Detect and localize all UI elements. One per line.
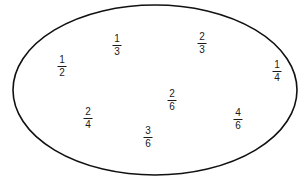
fraction-numerator: 3: [144, 125, 152, 136]
fraction-denominator: 6: [234, 120, 242, 131]
fraction-1-over-4: 14: [273, 59, 282, 83]
fraction-denominator: 4: [273, 72, 281, 83]
fraction-4-over-6: 46: [234, 107, 243, 131]
fraction-denominator: 3: [113, 46, 121, 57]
fraction-numerator: 1: [113, 33, 121, 44]
fraction-2-over-3: 23: [198, 31, 207, 55]
fraction-denominator: 2: [58, 67, 66, 78]
fraction-numerator: 2: [198, 31, 206, 42]
fraction-numerator: 1: [58, 54, 66, 65]
fraction-numerator: 2: [168, 88, 176, 99]
fraction-2-over-6: 26: [168, 88, 177, 112]
fraction-numerator: 2: [84, 106, 92, 117]
fraction-3-over-6: 36: [144, 125, 153, 149]
fraction-2-over-4: 24: [84, 106, 93, 130]
fraction-1-over-3: 13: [113, 33, 122, 57]
fraction-denominator: 3: [198, 44, 206, 55]
fraction-1-over-2: 12: [58, 54, 67, 78]
fraction-numerator: 4: [234, 107, 242, 118]
fraction-denominator: 4: [84, 119, 92, 130]
fraction-denominator: 6: [168, 101, 176, 112]
fraction-numerator: 1: [273, 59, 281, 70]
fraction-denominator: 6: [144, 138, 152, 149]
oval-outline: [0, 0, 306, 181]
worksheet-canvas: 1/2=4/8 1323121426244636: [0, 0, 306, 181]
oval-ellipse-shape: [13, 5, 297, 175]
